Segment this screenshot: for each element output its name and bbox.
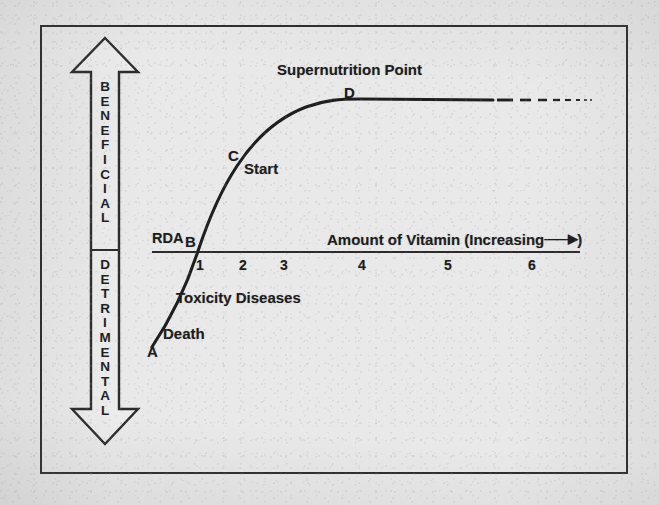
axis-letter: N bbox=[92, 109, 118, 124]
axis-label-beneficial: BENEFICIAL bbox=[92, 80, 118, 226]
axis-letter: I bbox=[92, 153, 118, 168]
x-tick-3: 3 bbox=[280, 258, 288, 272]
axis-letter: F bbox=[92, 138, 118, 153]
axis-letter: E bbox=[92, 346, 118, 361]
x-tick-1: 1 bbox=[196, 258, 204, 272]
annotation-start: Start bbox=[244, 161, 278, 176]
axis-letter: L bbox=[92, 404, 118, 419]
x-axis-arrow-glyph: ——▶ bbox=[544, 231, 577, 246]
annotation-supernutrition-point: Supernutrition Point bbox=[277, 62, 422, 77]
x-tick-2: 2 bbox=[239, 258, 247, 272]
axis-letter: C bbox=[92, 168, 118, 183]
axis-letter: E bbox=[92, 273, 118, 288]
annotation-death: Death bbox=[163, 326, 205, 341]
axis-letter: T bbox=[92, 375, 118, 390]
detrimental-letters: DETRIMENTAL bbox=[92, 258, 118, 419]
point-label-c: C bbox=[228, 148, 239, 163]
point-label-d: D bbox=[344, 85, 355, 100]
axis-letter: M bbox=[92, 331, 118, 346]
x-axis-title-text: Amount of Vitamin (Increasing bbox=[327, 231, 544, 248]
x-axis-title-suffix: ) bbox=[577, 231, 582, 248]
annotation-toxicity-diseases: Toxicity Diseases bbox=[176, 290, 301, 305]
point-label-a: A bbox=[147, 344, 158, 359]
beneficial-letters: BENEFICIAL bbox=[92, 80, 118, 226]
axis-label-detrimental: DETRIMENTAL bbox=[92, 258, 118, 419]
axis-letter: R bbox=[92, 302, 118, 317]
axis-letter: I bbox=[92, 182, 118, 197]
axis-letter: D bbox=[92, 258, 118, 273]
diagram-canvas: BENEFICIAL DETRIMENTAL RDA Amount of Vit… bbox=[0, 0, 659, 505]
axis-letter: L bbox=[92, 211, 118, 226]
axis-letter: N bbox=[92, 360, 118, 375]
response-curve-solid bbox=[152, 99, 493, 347]
axis-letter: T bbox=[92, 287, 118, 302]
axis-letter: I bbox=[92, 316, 118, 331]
axis-letter: A bbox=[92, 197, 118, 212]
x-tick-4: 4 bbox=[358, 258, 366, 272]
axis-letter: E bbox=[92, 124, 118, 139]
x-axis-title: Amount of Vitamin (Increasing——▶) bbox=[327, 232, 582, 247]
rda-label: RDA bbox=[152, 231, 183, 246]
axis-letter: B bbox=[92, 80, 118, 95]
axis-letter: A bbox=[92, 389, 118, 404]
x-tick-6: 6 bbox=[528, 258, 536, 272]
point-label-b: B bbox=[185, 234, 196, 249]
x-tick-5: 5 bbox=[444, 258, 452, 272]
axis-letter: E bbox=[92, 95, 118, 110]
